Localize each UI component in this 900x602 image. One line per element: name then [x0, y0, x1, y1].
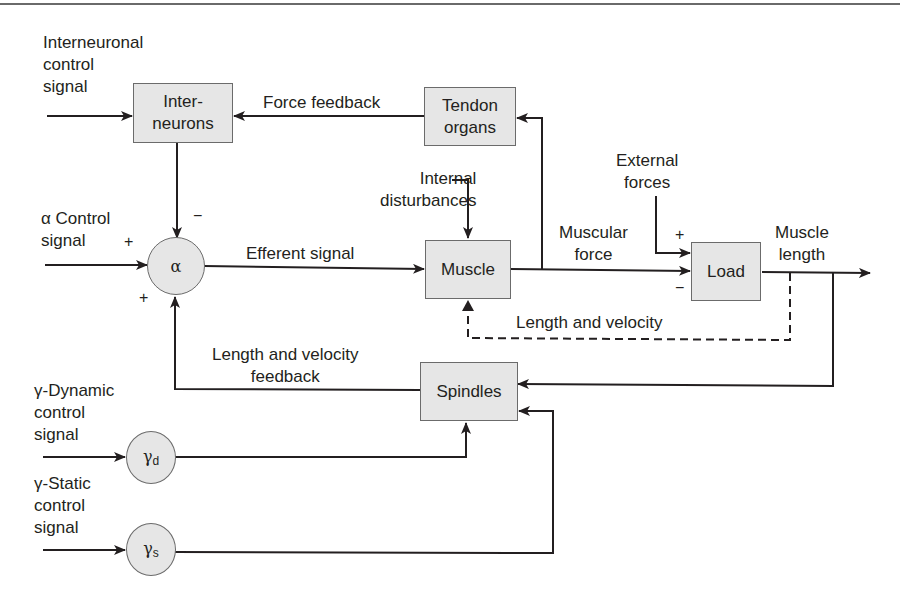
- alpha-top-minus-sign: −: [193, 208, 202, 224]
- label-line: signal: [41, 230, 110, 252]
- node-subscript: s: [153, 546, 159, 560]
- block-label: Spindles: [436, 381, 501, 403]
- label-line: forces: [616, 172, 678, 194]
- block-label: Muscle: [441, 259, 495, 281]
- tendon-organs-block: Tendon organs: [424, 87, 516, 146]
- label-line: signal: [34, 424, 114, 446]
- label-line: Muscular: [559, 222, 628, 244]
- gamma-static-node: γs: [126, 523, 176, 576]
- block-label: neurons: [152, 113, 213, 135]
- label-line: control: [34, 402, 114, 424]
- label-line: disturbances: [380, 190, 476, 212]
- load-top-plus-sign: +: [675, 227, 684, 243]
- alpha-control-signal-label: α Control signal: [41, 208, 110, 252]
- gamma-dynamic-control-signal-label: γ-Dynamic control signal: [34, 380, 114, 446]
- label-line: length: [775, 244, 829, 266]
- alpha-motoneuron-node: α: [147, 237, 205, 295]
- label-line: γ-Static: [34, 473, 91, 495]
- gamma-dynamic-node: γd: [126, 431, 176, 484]
- node-symbol: γ: [143, 447, 153, 466]
- node-symbol: α: [171, 257, 182, 276]
- alpha-left-plus-sign: +: [124, 234, 133, 250]
- block-label: Inter-: [152, 91, 213, 113]
- spindles-block: Spindles: [420, 362, 518, 421]
- external-forces-label: External forces: [616, 150, 678, 194]
- muscle-block: Muscle: [425, 240, 511, 299]
- block-label: Tendon: [442, 95, 498, 117]
- label-line: Muscle: [775, 222, 829, 244]
- label-line: feedback: [212, 366, 359, 388]
- block-label: organs: [442, 117, 498, 139]
- efferent-signal-label: Efferent signal: [246, 243, 354, 265]
- load-block: Load: [691, 242, 761, 301]
- label-line: α Control: [41, 208, 110, 230]
- load-bottom-minus-sign: −: [675, 280, 684, 296]
- label-line: signal: [34, 517, 91, 539]
- label-line: control: [34, 495, 91, 517]
- muscular-force-label: Muscular force: [559, 222, 628, 266]
- interneurons-block: Inter- neurons: [133, 83, 233, 143]
- label-line: signal: [43, 76, 143, 98]
- force-feedback-label: Force feedback: [263, 92, 380, 114]
- label-line: Internal: [380, 168, 476, 190]
- node-symbol: γ: [143, 539, 153, 558]
- internal-disturbances-label: Internal disturbances: [380, 168, 476, 212]
- gamma-static-control-signal-label: γ-Static control signal: [34, 473, 91, 539]
- block-label: Load: [707, 261, 745, 283]
- label-line: γ-Dynamic: [34, 380, 114, 402]
- label-line: Length and velocity: [212, 344, 359, 366]
- label-line: control: [43, 54, 143, 76]
- label-line: External: [616, 150, 678, 172]
- alpha-bottom-plus-sign: +: [139, 290, 148, 306]
- node-subscript: d: [152, 454, 159, 468]
- length-and-velocity-label: Length and velocity: [516, 312, 663, 334]
- interneuronal-control-signal-label: Interneuronal control signal: [43, 32, 143, 98]
- label-line: force: [559, 244, 628, 266]
- length-velocity-feedback-label: Length and velocity feedback: [212, 344, 359, 388]
- label-line: Interneuronal: [43, 32, 143, 54]
- muscle-length-label: Muscle length: [775, 222, 829, 266]
